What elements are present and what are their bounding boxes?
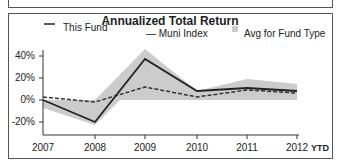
x-tick-label: 2007	[28, 142, 58, 153]
y-tick-label: -20%	[7, 116, 35, 127]
x-tick-label: 2011	[232, 142, 262, 153]
x-axis-ticks	[95, 135, 297, 139]
legend-this-fund-label: This Fund	[63, 22, 107, 33]
x-tick-label: 2009	[130, 142, 160, 153]
legend-this-fund: This Fund	[63, 22, 107, 33]
legend-muni-index-label: — Muni Index	[146, 28, 208, 39]
x-tick-label: 2012	[282, 142, 312, 153]
avg-fund-type-band	[43, 49, 297, 125]
y-tick-label: 20%	[7, 72, 35, 83]
legend-avg-fund-type-label: Avg for Fund Type	[244, 28, 325, 39]
legend-avg-fund-type: Avg for Fund Type	[244, 28, 325, 39]
y-tick-label: 40%	[7, 50, 35, 61]
ytd-label: YTD	[311, 143, 329, 153]
legend-muni-index: — Muni Index	[146, 28, 208, 39]
y-axis-ticks	[39, 56, 43, 122]
y-tick-label: 0%	[7, 94, 35, 105]
x-tick-label: 2010	[182, 142, 212, 153]
chart-title: Annualized Total Return	[0, 14, 340, 28]
x-tick-label: 2008	[80, 142, 110, 153]
